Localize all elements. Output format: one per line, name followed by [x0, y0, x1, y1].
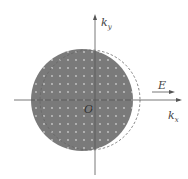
ky-arrowhead-icon — [93, 14, 97, 20]
kx-arrowhead-icon — [176, 98, 182, 102]
electric-field-label: E — [158, 80, 166, 91]
ky-axis-label: ky — [101, 17, 112, 31]
field-arrowhead-icon — [169, 90, 175, 94]
kx-axis-label: kx — [168, 110, 179, 124]
origin-label: O — [84, 104, 93, 115]
